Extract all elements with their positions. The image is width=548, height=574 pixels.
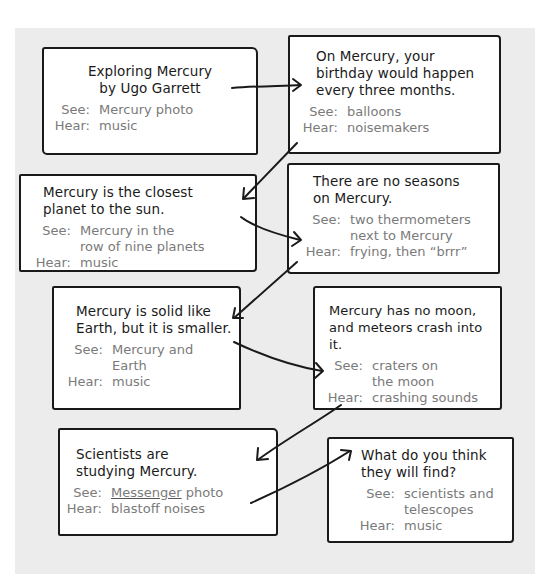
card-title: Exploring Mercury by Ugo Garrett: [54, 63, 246, 97]
hear-row: Hear: music: [35, 255, 247, 271]
hear-label: Hear:: [62, 501, 111, 517]
see-label: See:: [323, 358, 372, 390]
title-line: every three months.: [316, 82, 491, 99]
see-row: See: Mercury in the row of nine planets: [35, 223, 247, 255]
hear-label: Hear:: [296, 120, 347, 136]
see-rest: photo: [182, 485, 224, 500]
see-line: Earth: [112, 358, 193, 374]
storyboard-card-5: Mercury is solid like Earth, but it is s…: [52, 286, 241, 410]
see-line: scientists and: [404, 486, 494, 502]
see-label: See:: [62, 485, 111, 501]
title-line: and meteors crash into it.: [329, 319, 496, 353]
title-line: they will find?: [361, 464, 508, 481]
hear-label: Hear:: [323, 390, 372, 406]
see-line: Mercury and: [112, 342, 193, 358]
card-title: There are no seasons on Mercury.: [313, 173, 492, 207]
hear-row: Hear: music: [63, 374, 235, 390]
hear-value: music: [112, 374, 150, 390]
title-line: Exploring Mercury: [54, 63, 246, 80]
hear-label: Hear:: [351, 518, 404, 534]
hear-value: music: [80, 255, 118, 271]
card-title: Mercury has no moon, and meteors crash i…: [329, 302, 496, 353]
title-line: Mercury is solid like: [76, 303, 235, 320]
see-line: two thermometers: [350, 212, 471, 228]
hear-row: Hear: music: [54, 118, 246, 134]
see-value: balloons: [347, 104, 401, 120]
see-label: See:: [54, 102, 99, 118]
see-line: next to Mercury: [350, 228, 471, 244]
see-value: Mercury in the row of nine planets: [80, 223, 205, 255]
storyboard-card-2: On Mercury, your birthday would happen e…: [288, 35, 501, 154]
card-title: What do you think they will find?: [361, 447, 508, 481]
see-value: Mercury and Earth: [112, 342, 193, 374]
title-line: Earth, but it is smaller.: [76, 320, 235, 337]
hear-label: Hear:: [301, 244, 350, 260]
hear-value: frying, then “brrr”: [350, 244, 468, 260]
hear-row: Hear: blastoff noises: [62, 501, 270, 517]
card-title: Mercury is the closest planet to the sun…: [43, 184, 247, 218]
hear-row: Hear: crashing sounds: [323, 390, 496, 406]
title-line: on Mercury.: [313, 190, 492, 207]
storyboard-card-3: Mercury is the closest planet to the sun…: [19, 174, 257, 272]
see-line: row of nine planets: [80, 239, 205, 255]
see-value: two thermometers next to Mercury: [350, 212, 471, 244]
storyboard-card-1: Exploring Mercury by Ugo Garrett See: Me…: [42, 47, 258, 155]
title-line: On Mercury, your: [316, 48, 491, 65]
title-line: There are no seasons: [313, 173, 492, 190]
see-row: See: craters on the moon: [323, 358, 496, 390]
see-line: Mercury in the: [80, 223, 205, 239]
card-title: Scientists are studying Mercury.: [76, 446, 270, 480]
storyboard-card-6: Mercury has no moon, and meteors crash i…: [313, 286, 502, 410]
hear-value: noisemakers: [347, 120, 429, 136]
see-label: See:: [351, 486, 404, 518]
see-value: craters on the moon: [372, 358, 438, 390]
see-value: Mercury photo: [99, 102, 193, 118]
hear-label: Hear:: [63, 374, 112, 390]
see-row: See: Messenger photo: [62, 485, 270, 501]
title-line: by Ugo Garrett: [54, 80, 246, 97]
storyboard-card-8: What do you think they will find? See: s…: [327, 437, 514, 543]
card-title: Mercury is solid like Earth, but it is s…: [76, 303, 235, 337]
card-title: On Mercury, your birthday would happen e…: [316, 48, 491, 99]
see-row: See: two thermometers next to Mercury: [301, 212, 492, 244]
see-row: See: Mercury photo: [54, 102, 246, 118]
see-value: scientists and telescopes: [404, 486, 494, 518]
see-row: See: scientists and telescopes: [351, 486, 508, 518]
storyboard-card-4: There are no seasons on Mercury. See: tw…: [287, 163, 500, 274]
see-line: craters on: [372, 358, 438, 374]
title-line: studying Mercury.: [76, 463, 270, 480]
see-label: See:: [63, 342, 112, 374]
hear-label: Hear:: [35, 255, 80, 271]
messenger-underlined: Messenger: [111, 485, 182, 500]
hear-label: Hear:: [54, 118, 99, 134]
see-line: telescopes: [404, 502, 494, 518]
hear-value: music: [99, 118, 137, 134]
hear-value: music: [404, 518, 442, 534]
see-value: Messenger photo: [111, 485, 223, 501]
title-line: birthday would happen: [316, 65, 491, 82]
see-row: See: Mercury and Earth: [63, 342, 235, 374]
see-label: See:: [296, 104, 347, 120]
title-line: planet to the sun.: [43, 201, 247, 218]
hear-value: crashing sounds: [372, 390, 478, 406]
see-row: See: balloons: [296, 104, 491, 120]
title-line: Scientists are: [76, 446, 270, 463]
hear-row: Hear: music: [351, 518, 508, 534]
title-line: Mercury is the closest: [43, 184, 247, 201]
title-line: Mercury has no moon,: [329, 302, 496, 319]
see-label: See:: [301, 212, 350, 244]
hear-row: Hear: noisemakers: [296, 120, 491, 136]
hear-value: blastoff noises: [111, 501, 205, 517]
title-line: What do you think: [361, 447, 508, 464]
see-line: the moon: [372, 374, 438, 390]
hear-row: Hear: frying, then “brrr”: [301, 244, 492, 260]
storyboard-card-7: Scientists are studying Mercury. See: Me…: [58, 428, 278, 536]
see-label: See:: [35, 223, 80, 255]
